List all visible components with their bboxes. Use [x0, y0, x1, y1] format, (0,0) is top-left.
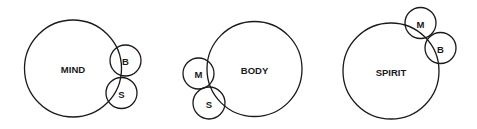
- mind-satellite-body-label: B: [122, 56, 129, 67]
- body-satellite-mind-label: M: [195, 69, 203, 80]
- spirit-satellite-body-label: B: [437, 44, 444, 55]
- mind-body-spirit-diagram: MIND B S BODY M S SPIRIT M B: [0, 0, 477, 129]
- body-satellite-spirit-label: S: [206, 99, 212, 110]
- mind-diagram: MIND B S: [25, 20, 142, 117]
- mind-satellite-spirit-label: S: [118, 89, 124, 100]
- body-diagram: BODY M S: [183, 22, 302, 120]
- spirit-diagram: SPIRIT M B: [343, 8, 456, 120]
- spirit-main-label: SPIRIT: [376, 67, 407, 78]
- spirit-satellite-mind-label: M: [417, 19, 425, 30]
- body-main-label: BODY: [241, 65, 269, 76]
- mind-main-label: MIND: [61, 64, 85, 75]
